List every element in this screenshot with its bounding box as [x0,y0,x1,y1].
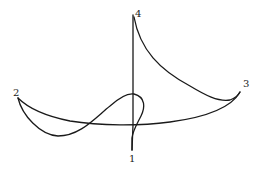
segment-vertical-4-to-1 [132,15,133,150]
point-label-4: 4 [135,8,141,19]
segment-arc-4-to-3 [134,17,240,100]
point-label-2: 2 [13,87,19,98]
point-label-3: 3 [243,78,249,89]
curve-diagram: 4 2 3 1 [0,0,259,171]
segment-arc-3-to-2 [18,92,240,125]
point-label-1: 1 [129,153,135,164]
